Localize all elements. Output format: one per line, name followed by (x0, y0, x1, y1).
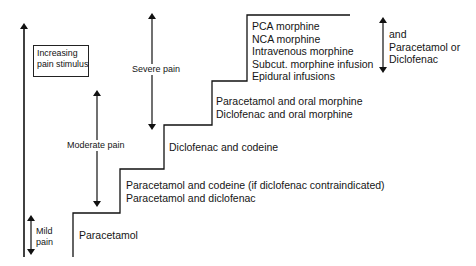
step-3-drugs: Diclofenac and codeine (169, 141, 278, 154)
step-5-drugs: PCA morphine NCA morphine Intravenous mo… (252, 20, 373, 83)
step-2-drugs: Paracetamol and codeine (if diclofenac c… (126, 179, 385, 204)
box-line: Increasing (37, 48, 85, 59)
severe-pain-label: Severe pain (131, 64, 181, 75)
adjunct-note: and Paracetamol or Diclofenac (389, 28, 460, 66)
drug-option: Subcut. morphine infusion (252, 58, 373, 71)
adjunct-line: Diclofenac (389, 53, 460, 66)
moderate-pain-label: Moderate pain (66, 140, 126, 151)
drug-option: NCA morphine (252, 33, 373, 46)
drug-option: Paracetamol (79, 229, 138, 242)
drug-option: Diclofenac and oral morphine (216, 108, 363, 121)
increasing-pain-stimulus-box: Increasing pain stimulus (33, 45, 89, 77)
step-1-drugs: Paracetamol (79, 229, 138, 242)
step-4-drugs: Paracetamol and oral morphine Diclofenac… (216, 95, 363, 120)
drug-option: Diclofenac and codeine (169, 141, 278, 154)
adjunct-line: Paracetamol or (389, 41, 460, 54)
box-line: pain stimulus (37, 59, 85, 70)
drug-option: Paracetamol and oral morphine (216, 95, 363, 108)
mild-pain-label: Mild pain (36, 226, 53, 248)
drug-option: Paracetamol and diclofenac (126, 192, 385, 205)
drug-option: Epidural infusions (252, 70, 373, 83)
mild-label-line: pain (36, 237, 53, 248)
adjunct-line: and (389, 28, 460, 41)
mild-label-line: Mild (36, 226, 53, 237)
drug-option: PCA morphine (252, 20, 373, 33)
drug-option: Intravenous morphine (252, 45, 373, 58)
drug-option: Paracetamol and codeine (if diclofenac c… (126, 179, 385, 192)
